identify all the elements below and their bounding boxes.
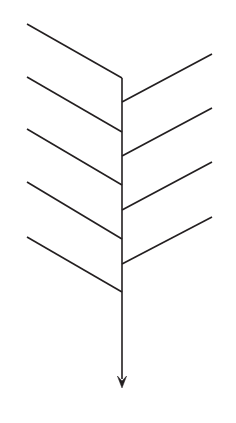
fishbone-diagram-canvas [0,0,236,423]
right-bone-4 [122,217,212,264]
right-bone-2 [122,108,212,156]
left-bone-1 [27,24,122,78]
spine-group [117,78,126,388]
right-bones-group [122,54,212,264]
left-bone-3 [27,129,122,185]
left-bones-group [27,24,122,292]
left-bone-4 [27,182,122,239]
left-bone-5 [27,237,122,292]
right-bone-1 [122,54,212,102]
right-bone-3 [122,162,212,210]
left-bone-2 [27,77,122,132]
fishbone-diagram [0,0,236,423]
